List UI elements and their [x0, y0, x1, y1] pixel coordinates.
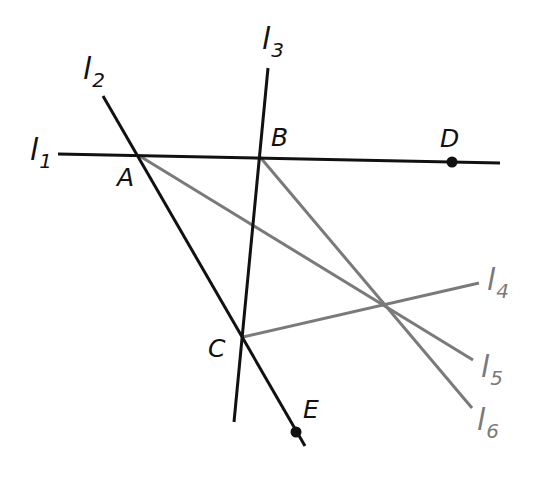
geometry-diagram: l1 l2 l3 l4 l5 l6 A B C D E [0, 0, 537, 477]
line-l6 [260, 157, 472, 408]
point-d-dot [447, 157, 458, 168]
line-l1 [58, 154, 500, 163]
label-l5: l5 [481, 352, 503, 388]
label-l4-sub: 4 [496, 279, 509, 303]
label-l6: l6 [477, 405, 499, 441]
label-l6-sub: 6 [486, 419, 499, 443]
label-l1-main: l [30, 132, 38, 167]
label-l3: l3 [262, 24, 284, 60]
point-e-dot [291, 427, 302, 438]
label-l1-sub: 1 [39, 149, 52, 173]
label-l6-main: l [477, 402, 485, 437]
label-l5-sub: 5 [490, 366, 503, 390]
label-l3-sub: 3 [271, 38, 284, 62]
diagram-lines [0, 0, 537, 477]
label-l4: l4 [487, 265, 509, 301]
label-point-e: E [303, 397, 319, 422]
label-point-d: D [440, 126, 459, 151]
label-l2-main: l [83, 51, 91, 86]
label-l2-sub: 2 [92, 68, 105, 92]
label-l3-main: l [262, 21, 270, 56]
line-l5 [138, 155, 473, 360]
label-l4-main: l [487, 262, 495, 297]
label-point-a: A [117, 165, 134, 190]
label-l5-main: l [481, 349, 489, 384]
line-l3 [234, 68, 268, 422]
label-point-c: C [208, 336, 225, 361]
label-l2: l2 [83, 54, 105, 90]
label-point-b: B [271, 125, 288, 150]
label-l1: l1 [30, 135, 52, 171]
